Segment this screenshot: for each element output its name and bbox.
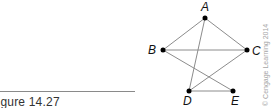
node-e <box>231 89 236 94</box>
node-label-c: C <box>252 44 261 58</box>
node-label-e: E <box>231 94 240 108</box>
graph-nodes <box>161 16 250 94</box>
graph-edges <box>163 18 247 91</box>
node-a <box>203 16 208 21</box>
node-label-d: D <box>183 94 192 108</box>
node-b <box>161 48 166 53</box>
node-c <box>245 48 250 53</box>
copyright-credit: © Cengage Learning 2014 <box>262 24 269 106</box>
node-label-a: A <box>200 0 209 14</box>
graph-diagram: A B C D E <box>0 0 275 108</box>
edge-a-c <box>205 18 247 50</box>
node-label-b: B <box>148 43 156 57</box>
node-d <box>187 89 192 94</box>
